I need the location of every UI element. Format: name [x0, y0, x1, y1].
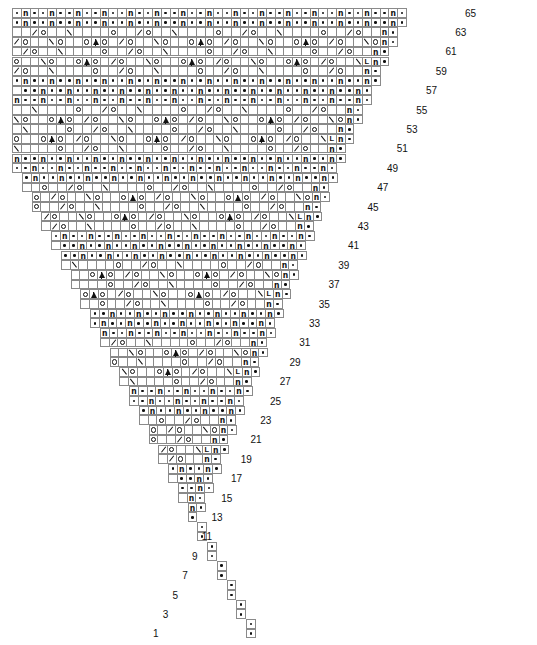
chart-row — [32, 202, 321, 212]
chart-row — [236, 600, 245, 610]
chart-row — [90, 309, 283, 319]
chart-cell — [345, 124, 355, 134]
chart-row — [12, 144, 345, 154]
chart-cell — [207, 551, 217, 561]
chart-row — [217, 561, 226, 571]
row-number-label: 55 — [416, 106, 427, 116]
chart-cell — [397, 8, 407, 18]
chart-cell — [242, 377, 252, 387]
chart-cell — [274, 309, 284, 319]
chart-cell — [258, 348, 268, 358]
chart-cell — [353, 115, 363, 125]
chart-cell — [266, 328, 276, 338]
chart-row — [71, 270, 299, 280]
chart-row — [100, 328, 275, 338]
chart-cell — [235, 406, 245, 416]
chart-cell — [243, 386, 253, 396]
chart-row — [12, 154, 345, 164]
chart-row — [246, 619, 255, 629]
chart-cell — [282, 289, 292, 299]
chart-cell — [203, 474, 213, 484]
chart-row — [227, 590, 236, 600]
chart-row — [41, 221, 312, 231]
chart-row — [207, 542, 216, 552]
chart-cell — [217, 571, 227, 581]
chart-row — [139, 406, 244, 416]
chart-cell — [371, 76, 381, 86]
chart-cell — [217, 561, 227, 571]
row-number-label: 41 — [348, 241, 359, 251]
chart-row — [129, 396, 243, 406]
chart-cell — [188, 512, 198, 522]
chart-cell — [234, 396, 244, 406]
chart-row — [207, 551, 216, 561]
chart-row — [12, 124, 353, 134]
row-number-label: 25 — [270, 397, 281, 407]
chart-cell — [312, 202, 322, 212]
chart-cell — [246, 629, 256, 639]
chart-row — [12, 115, 362, 125]
row-number-label: 27 — [280, 377, 291, 387]
chart-cell — [304, 221, 314, 231]
row-number-label: 61 — [446, 47, 457, 57]
chart-cell — [219, 435, 229, 445]
chart-row — [188, 503, 206, 513]
chart-row — [41, 212, 321, 222]
row-number-label: 65 — [465, 9, 476, 19]
chart-row — [12, 57, 388, 67]
chart-cell — [246, 619, 256, 629]
chart-cell — [211, 454, 221, 464]
chart-cell — [320, 192, 330, 202]
chart-cell — [226, 415, 236, 425]
chart-cell — [297, 251, 307, 261]
row-number-label: 7 — [182, 571, 188, 581]
chart-row — [32, 192, 330, 202]
chart-row — [90, 318, 274, 328]
chart-row — [158, 445, 228, 455]
chart-cell — [265, 318, 275, 328]
chart-row — [22, 183, 328, 193]
row-number-label: 49 — [387, 164, 398, 174]
row-number-label: 51 — [397, 144, 408, 154]
chart-row — [71, 280, 290, 290]
row-number-label: 63 — [455, 28, 466, 38]
row-number-label: 47 — [377, 183, 388, 193]
row-number-label: 59 — [436, 67, 447, 77]
chart-cell — [227, 590, 237, 600]
chart-row — [61, 260, 297, 270]
chart-cell — [353, 105, 363, 115]
chart-row — [51, 241, 305, 251]
chart-row — [149, 425, 237, 435]
chart-row — [139, 415, 235, 425]
row-number-label: 21 — [251, 435, 262, 445]
row-number-label: 37 — [329, 280, 340, 290]
chart-row — [12, 47, 388, 57]
chart-row — [80, 299, 281, 309]
chart-row — [12, 95, 371, 105]
chart-row — [246, 629, 255, 639]
chart-row — [178, 493, 204, 503]
chart-cell — [319, 183, 329, 193]
chart-row — [51, 231, 314, 241]
chart-row — [236, 609, 245, 619]
chart-cell — [345, 134, 355, 144]
chart-row — [61, 251, 306, 261]
chart-row — [12, 8, 406, 18]
row-number-label: 15 — [221, 494, 232, 504]
chart-cell — [236, 600, 246, 610]
chart-row — [110, 357, 259, 367]
chart-row — [110, 348, 268, 358]
chart-cell — [371, 66, 381, 76]
chart-cell — [328, 173, 338, 183]
chart-cell — [397, 18, 407, 28]
chart-cell — [380, 57, 390, 67]
row-number-label: 43 — [358, 222, 369, 232]
chart-cell — [296, 241, 306, 251]
chart-row — [12, 163, 336, 173]
row-number-label: 45 — [368, 203, 379, 213]
chart-row — [119, 367, 259, 377]
chart-cell — [362, 95, 372, 105]
chart-cell — [380, 47, 390, 57]
chart-cell — [388, 37, 398, 47]
chart-cell — [227, 425, 237, 435]
